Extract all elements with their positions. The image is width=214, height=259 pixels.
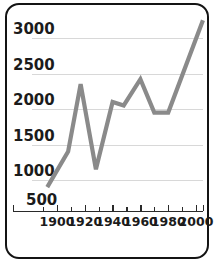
y-tick-label-2500: 2500	[13, 56, 55, 74]
data-series-line	[47, 20, 203, 187]
y-tick-label-1000: 1000	[13, 162, 55, 180]
y-tick-label-1500: 1500	[13, 127, 55, 145]
y-tick-label-3000: 3000	[13, 20, 55, 38]
gridline-group	[32, 39, 203, 181]
x-tick-label-2000: 2000	[179, 214, 214, 229]
y-tick-label-2000: 2000	[13, 91, 55, 109]
y-tick-label-500: 500	[26, 191, 57, 209]
x-axis-label-group: 190019201940196019802000	[40, 214, 214, 229]
